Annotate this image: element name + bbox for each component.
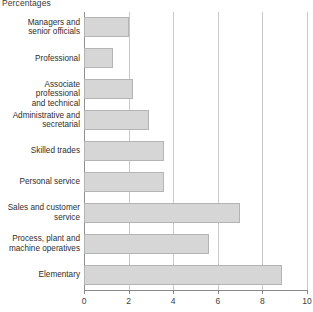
x-tick-0 [84, 290, 85, 294]
x-tick-6 [218, 290, 219, 294]
bar [84, 265, 282, 285]
x-tick-8 [262, 290, 263, 294]
bar-chart: Percentages Managers and senior official… [0, 0, 313, 312]
x-tick-label-8: 8 [260, 296, 265, 306]
x-tick-label-10: 10 [302, 296, 311, 306]
x-axis-line [84, 290, 308, 291]
bar [84, 79, 133, 99]
x-tick-label-4: 4 [171, 296, 176, 306]
bar [84, 203, 240, 223]
bar [84, 234, 209, 254]
bar-row [84, 234, 307, 254]
category-axis: Managers and senior officialsProfessiona… [0, 12, 80, 290]
bar [84, 141, 164, 161]
category-label: Managers and senior officials [0, 18, 80, 37]
bar-row [84, 48, 307, 68]
bar-row [84, 141, 307, 161]
category-label: Skilled trades [0, 146, 80, 156]
category-label: Personal service [0, 177, 80, 187]
bar [84, 48, 113, 68]
category-label: Sales and customer service [0, 203, 80, 222]
bar-row [84, 17, 307, 37]
category-label: Professional [0, 54, 80, 64]
bar [84, 172, 164, 192]
bar [84, 17, 129, 37]
bar-row [84, 79, 307, 99]
category-label: Process, plant and machine operatives [0, 234, 80, 253]
bar-row [84, 172, 307, 192]
bar-row [84, 203, 307, 223]
x-tick-10 [307, 290, 308, 294]
x-tick-label-2: 2 [126, 296, 131, 306]
x-tick-label-6: 6 [215, 296, 220, 306]
plot-area [84, 12, 307, 290]
gridline-10 [307, 12, 308, 290]
category-label: Associate professional and technical [0, 80, 80, 109]
bar-row [84, 265, 307, 285]
chart-title: Percentages [2, 0, 51, 8]
x-tick-4 [173, 290, 174, 294]
x-tick-label-0: 0 [82, 296, 87, 306]
bar-row [84, 110, 307, 130]
bar [84, 110, 149, 130]
category-label: Administrative and secretarial [0, 111, 80, 130]
category-label: Elementary [0, 270, 80, 280]
x-tick-2 [129, 290, 130, 294]
